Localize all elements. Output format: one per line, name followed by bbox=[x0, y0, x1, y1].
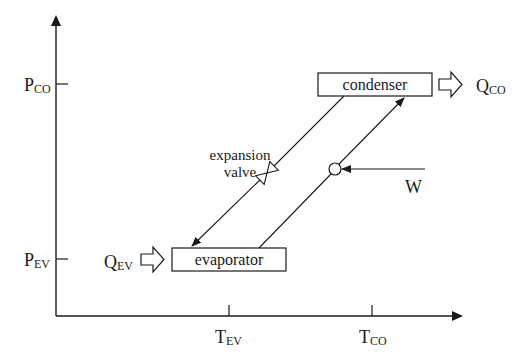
evaporator-box: evaporator bbox=[172, 248, 286, 271]
y-axis-arrow-icon bbox=[51, 15, 61, 26]
expansion-valve-label-line2: valve bbox=[224, 164, 257, 180]
y-label-pco: PCO bbox=[24, 75, 51, 96]
condenser-box: condenser bbox=[318, 73, 432, 96]
y-axis: PCO PEV bbox=[24, 15, 68, 316]
expansion-valve-label-line1: expansion bbox=[210, 147, 271, 163]
heat-in-arrow-icon bbox=[141, 247, 164, 272]
work-label: W bbox=[405, 177, 422, 197]
q-ev-label: QEV bbox=[104, 252, 133, 273]
evaporator-label: evaporator bbox=[195, 251, 264, 269]
x-axis: TEV TCO bbox=[56, 305, 463, 348]
compressor-icon bbox=[329, 163, 341, 175]
refrigeration-cycle-diagram: PCO PEV TEV TCO condenser evaporator QCO… bbox=[0, 0, 531, 359]
y-label-pev: PEV bbox=[24, 250, 50, 271]
condenser-label: condenser bbox=[343, 76, 409, 93]
x-label-tev: TEV bbox=[215, 327, 242, 348]
x-label-tco: TCO bbox=[359, 327, 387, 348]
x-axis-arrow-icon bbox=[452, 311, 463, 321]
heat-out-arrow-icon bbox=[439, 72, 462, 97]
q-co-label: QCO bbox=[476, 76, 506, 97]
